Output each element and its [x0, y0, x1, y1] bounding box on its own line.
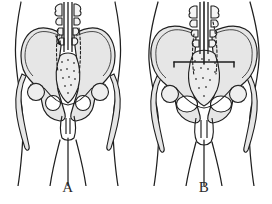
figure-root: A — [0, 0, 272, 204]
femoral-head-left-a — [28, 83, 45, 100]
femur-left-b — [151, 76, 164, 152]
panel-label-b: B — [136, 178, 272, 196]
femur-right-a — [107, 74, 120, 150]
femur-right-b — [244, 76, 257, 152]
femoral-head-right-a — [92, 83, 109, 100]
pelvis-illustration-a — [0, 0, 136, 186]
spinal-canal-a — [64, 2, 72, 52]
femur-left-a — [16, 74, 29, 150]
pelvis-illustration-b — [136, 0, 272, 186]
femoral-head-left-b — [162, 85, 179, 102]
femoral-head-right-b — [230, 85, 247, 102]
panel-label-a: A — [0, 178, 136, 196]
panel-a: A — [0, 0, 136, 204]
panel-b: B — [136, 0, 272, 204]
